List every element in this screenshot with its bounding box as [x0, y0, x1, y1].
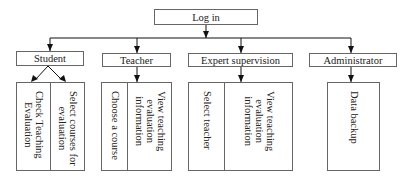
- function-select-teacher: Select teacher: [189, 83, 224, 170]
- function-data-backup: Data backup: [328, 83, 379, 170]
- function-label: Data backup: [348, 91, 359, 144]
- role-label: Expert supervision: [201, 55, 280, 66]
- login-node: Log in: [154, 9, 258, 25]
- function-label: Choose a course: [109, 91, 120, 160]
- role-node-expert-supervision: Expert supervision: [188, 53, 293, 67]
- student-functions: Check Teaching Evaluation Select courses…: [16, 82, 85, 171]
- function-choose-course: Choose a course: [102, 83, 127, 170]
- role-node-student: Student: [16, 51, 84, 66]
- role-label: Teacher: [120, 55, 153, 66]
- role-label: Student: [34, 53, 66, 64]
- expert-functions: Select teacher View teaching evaluation …: [188, 82, 293, 171]
- function-check-teaching-evaluation: Check Teaching Evaluation: [17, 83, 50, 170]
- role-node-teacher: Teacher: [102, 53, 171, 67]
- login-label: Log in: [192, 12, 220, 23]
- function-view-evaluation: View teaching evaluation information: [224, 83, 293, 170]
- role-node-administrator: Administrator: [309, 53, 397, 67]
- function-select-courses: Select courses for evaluation: [50, 83, 85, 170]
- administrator-functions: Data backup: [327, 82, 380, 171]
- function-label: View teaching evaluation information: [134, 91, 167, 151]
- function-label: Select teacher: [201, 91, 212, 150]
- role-label: Administrator: [324, 55, 383, 66]
- function-label: Check Teaching Evaluation: [23, 91, 45, 159]
- function-view-evaluation: View teaching evaluation information: [127, 83, 172, 170]
- function-label: Select courses for evaluation: [57, 91, 79, 166]
- function-label: View teaching evaluation information: [243, 91, 276, 151]
- teacher-functions: Choose a course View teaching evaluation…: [101, 82, 172, 171]
